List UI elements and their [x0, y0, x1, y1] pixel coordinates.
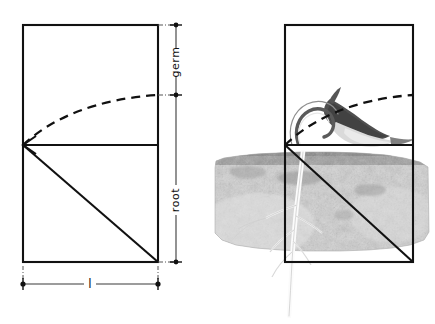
dimension-terminator-top	[170, 23, 182, 28]
figure-container: germ root l	[0, 0, 435, 324]
length-terminator-right	[155, 278, 160, 290]
root-diagonal-line	[23, 145, 158, 262]
schematic-rectangle	[23, 25, 158, 262]
germination-diagram-svg: germ root l	[0, 0, 435, 324]
germ-label: germ	[169, 46, 182, 77]
dimension-terminator-bottom	[170, 260, 182, 265]
schematic-panel	[23, 25, 158, 262]
germination-arc-dashed	[23, 95, 158, 145]
dimension-terminator-germ-root	[170, 93, 182, 98]
length-label: l	[88, 277, 91, 291]
length-terminator-left	[20, 278, 25, 290]
root-label: root	[169, 188, 182, 213]
photo-panel	[202, 25, 435, 316]
soil-block	[202, 148, 435, 258]
